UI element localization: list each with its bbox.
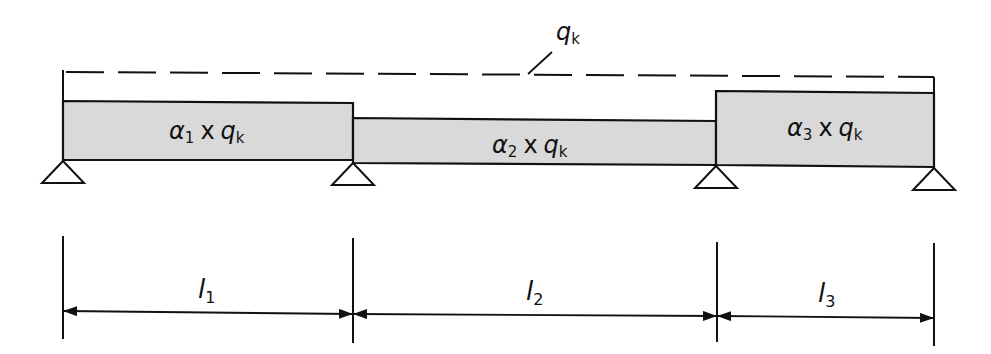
span-dimension-2: l2 <box>354 276 716 316</box>
beam-diagram: qk α1xqk α2xqk α3xqk <box>0 0 991 354</box>
leader-line <box>528 52 552 74</box>
load-block-1: α1xqk <box>63 101 353 160</box>
load-block-2: α2xqk <box>353 118 716 165</box>
load-label-2: α2xqk <box>492 131 568 161</box>
reference-load-label: qk <box>556 18 580 48</box>
support-4 <box>913 168 955 190</box>
span-dimension-1: l1 <box>64 274 352 314</box>
support-1 <box>42 161 84 183</box>
span-label-3: l3 <box>818 278 835 311</box>
load-label-3: α3xqk <box>787 114 863 144</box>
support-2 <box>332 163 374 185</box>
span-label-2: l2 <box>526 276 543 309</box>
span-label-1: l1 <box>198 274 215 307</box>
span-dimension-3: l3 <box>718 278 933 318</box>
support-3 <box>695 166 737 188</box>
reference-load-envelope: qk <box>63 18 934 101</box>
dimension-extension-lines <box>63 236 934 346</box>
load-block-3: α3xqk <box>716 91 934 167</box>
load-label-1: α1xqk <box>169 117 245 147</box>
